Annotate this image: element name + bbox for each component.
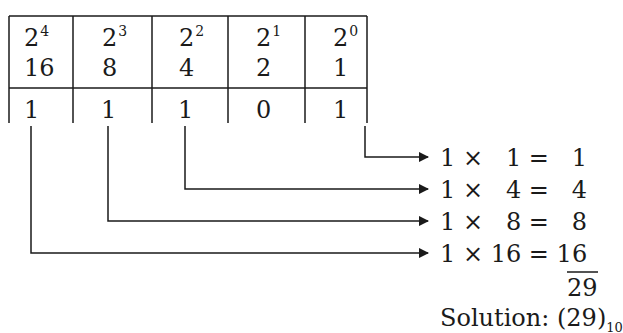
bit-col4: 1	[333, 98, 348, 122]
power-label-col2: 22	[179, 24, 204, 50]
arrow-bit0	[365, 126, 428, 157]
bit-col3: 0	[256, 98, 271, 122]
bit-col2: 1	[178, 98, 193, 122]
power-label-col4: 20	[333, 24, 358, 50]
power-label-col1: 23	[102, 24, 127, 50]
place-value-col4: 1	[333, 56, 348, 80]
power-label-col0: 24	[24, 24, 49, 50]
bit-col1: 1	[101, 98, 116, 122]
arrow-bit3	[108, 126, 428, 221]
place-value-col3: 2	[256, 56, 271, 80]
product-row-2: 1 × 8 = 8	[440, 210, 587, 234]
solution-line: Solution: (29)10	[440, 306, 623, 333]
product-row-0: 1 × 1 = 1	[440, 146, 587, 170]
product-row-3: 1 × 16 = 16	[440, 242, 587, 266]
product-row-1: 1 × 4 = 4	[440, 178, 587, 202]
sum-total: 29	[567, 276, 598, 300]
bit-col0: 1	[24, 98, 39, 122]
place-value-col2: 4	[179, 56, 194, 80]
place-value-col0: 16	[24, 56, 55, 80]
place-value-col1: 8	[102, 56, 117, 80]
power-label-col3: 21	[256, 24, 281, 50]
